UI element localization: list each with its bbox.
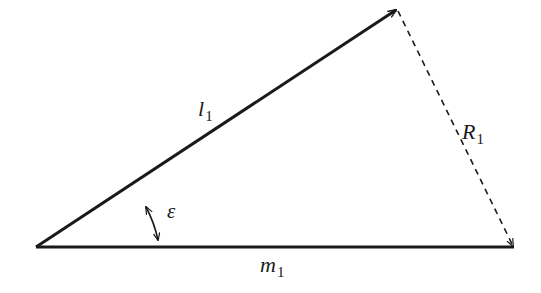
label-r1: R1 — [462, 121, 484, 147]
label-epsilon-base: ε — [167, 199, 175, 223]
vector-r1-dashed-line — [398, 11, 513, 246]
label-r1-sub: 1 — [476, 131, 484, 147]
angle-epsilon-arc — [146, 207, 158, 240]
diagram-graphic — [0, 0, 541, 293]
label-l1: l1 — [198, 98, 213, 124]
label-r1-base: R — [462, 119, 475, 144]
label-m1-base: m — [260, 252, 276, 277]
label-l1-sub: 1 — [205, 108, 213, 124]
label-m1: m1 — [260, 254, 284, 280]
label-m1-sub: 1 — [277, 264, 285, 280]
vector-diagram: l1 R1 m1 ε — [0, 0, 541, 293]
label-epsilon: ε — [167, 201, 175, 222]
label-l1-base: l — [198, 96, 204, 121]
vector-l1-line — [36, 10, 396, 247]
